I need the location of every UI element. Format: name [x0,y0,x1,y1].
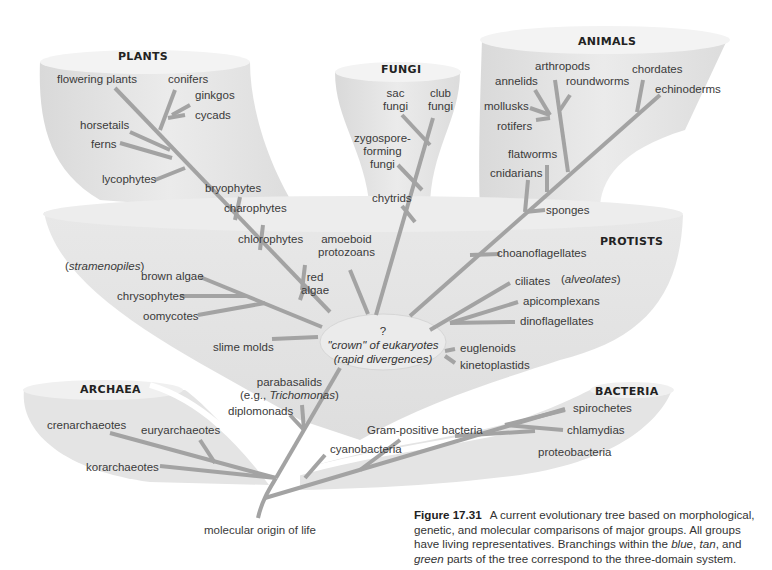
zygo-line1: zygospore- [354,132,411,144]
label-gram-positive-bacteria: Gram-positive bacteria [367,424,483,437]
figure-caption: Figure 17.31A current evolutionary tree … [414,508,764,566]
label-lycophytes: lycophytes [102,173,156,186]
crown-of-eukaryotes: ? "crown" of eukaryotes (rapid divergenc… [318,324,448,366]
label-kinetoplastids: kinetoplastids [460,359,530,372]
stramenopiles-text: stramenopiles [69,260,141,272]
group-title-protists: PROTISTS [600,235,663,248]
label-flowering-plants: flowering plants [57,73,137,86]
label-chytrids: chytrids [372,192,412,205]
group-title-bacteria: BACTERIA [595,385,658,398]
label-ginkgos: ginkgos [195,89,235,102]
label-parabasalids: parabasalids(e.g., Trichomonas) [240,376,339,402]
label-oomycotes: oomycotes [143,310,199,323]
label-chlamydias: chlamydias [567,424,625,437]
crown-line2: (rapid divergences) [334,353,432,365]
label-annelids: annelids [495,75,538,88]
label-sponges: sponges [546,204,589,217]
label-chlorophytes: chlorophytes [238,233,303,246]
label-charophytes: charophytes [224,202,287,215]
caption-and: , and [716,537,742,550]
crown-question-mark: ? [380,325,386,337]
group-title-archaea: ARCHAEA [80,383,141,396]
label-rotifers: rotifers [497,120,532,133]
label-stramenopiles: (stramenopiles) [65,260,144,273]
label-cyanobacteria: cyanobacteria [330,443,402,456]
group-title-fungi: FUNGI [381,63,421,76]
club-fungi-line2: fungi [428,100,453,112]
club-fungi-line1: club [430,87,451,99]
label-proteobacteria: proteobacteria [538,446,612,459]
label-apicomplexans: apicomplexans [523,295,600,308]
sac-fungi-line1: sac [387,87,405,99]
caption-tan: tan [700,537,716,550]
parabasalids-eg: (e.g., [240,389,269,401]
parabasalids-line1: parabasalids [257,376,322,388]
crown-line1: "crown" of eukaryotes [327,339,438,351]
trichomonas-text: Trichomonas [269,389,335,401]
label-echinoderms: echinoderms [655,83,721,96]
group-title-animals: ANIMALS [578,35,636,48]
label-crenarchaeotes: crenarchaeotes [47,419,126,432]
label-chordates: chordates [632,63,683,76]
label-zygospore-forming-fungi: zygospore-formingfungi [354,132,411,171]
caption-text-2: parts of the tree correspond to the thre… [444,552,737,565]
figure-number: Figure 17.31 [414,508,482,521]
label-amoeboid-protozoans: amoeboidprotozoans [318,233,375,259]
label-mollusks: mollusks [484,100,529,113]
sac-fungi-line2: fungi [383,100,408,112]
label-conifers: conifers [168,73,208,86]
label-slime-molds: slime molds [213,341,274,354]
label-sac-fungi: sacfungi [383,87,408,113]
label-euryarchaeotes: euryarchaeotes [141,424,220,437]
label-horsetails: horsetails [80,119,129,132]
label-euglenoids: euglenoids [460,342,516,355]
label-molecular-origin-of-life: molecular origin of life [204,524,316,537]
label-chrysophytes: chrysophytes [117,290,185,303]
animals-region [479,26,730,210]
label-cycads: cycads [195,109,231,122]
label-diplomonads: diplomonads [228,405,293,418]
label-club-fungi: clubfungi [428,87,453,113]
label-cnidarians: cnidarians [490,167,542,180]
label-dinoflagellates: dinoflagellates [520,315,594,328]
label-bryophytes: bryophytes [205,182,261,195]
amoeboid-line1: amoeboid [321,233,372,245]
label-korarchaeotes: korarchaeotes [86,461,159,474]
label-choanoflagellates: choanoflagellates [497,247,587,260]
label-ferns: ferns [91,138,117,151]
zygo-line3: fungi [370,158,395,170]
amoeboid-line2: protozoans [318,246,375,258]
label-alveolates: (alveolates) [561,273,620,286]
label-roundworms: roundworms [566,75,629,88]
label-spirochetes: spirochetes [573,402,632,415]
red-algae-line2: algae [301,284,329,296]
label-red-algae: redalgae [301,271,329,297]
label-flatworms: flatworms [508,148,557,161]
group-title-plants: PLANTS [118,50,168,63]
label-arthropods: arthropods [535,60,590,73]
red-algae-line1: red [307,271,324,283]
label-ciliates: ciliates [515,275,550,288]
zygo-line2: forming [363,145,401,157]
label-brown-algae: brown algae [141,270,204,283]
caption-blue: blue [671,537,693,550]
alveolates-text: alveolates [565,273,617,285]
caption-green: green [414,552,444,565]
